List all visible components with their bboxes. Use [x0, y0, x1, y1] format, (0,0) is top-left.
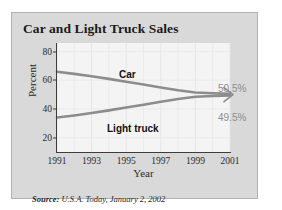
figure-card: Car and Light Truck Sales Percent Year 2… — [11, 12, 258, 199]
x-tick-label: 1997 — [151, 156, 170, 166]
x-tick-label: 1993 — [82, 156, 101, 166]
x-tick-label: 1999 — [186, 156, 205, 166]
x-axis-line — [56, 152, 231, 153]
source-note: Source: U.S.A. Today, January 2, 2002 — [32, 194, 165, 204]
y-axis-line — [56, 43, 57, 152]
y-tick-label: 40 — [43, 104, 53, 114]
y-tick-mark — [53, 80, 57, 81]
x-tick-label: 1991 — [48, 156, 67, 166]
x-tick-label: 2001 — [221, 156, 240, 166]
y-tick-label: 60 — [43, 75, 53, 85]
series-label-car: Car — [119, 69, 136, 80]
plot-area: 20406080 199119931995199719992001 — [57, 43, 230, 152]
y-tick-label: 20 — [43, 133, 53, 143]
chart-title: Car and Light Truck Sales — [23, 21, 179, 37]
source-note-text: U.S.A. Today, January 2, 2002 — [59, 194, 165, 204]
value-label-light-truck: 49.5% — [218, 112, 246, 123]
plot-frame: 20406080 199119931995199719992001 — [57, 43, 230, 152]
y-tick-mark — [53, 51, 57, 52]
value-label-car: 50.5% — [218, 83, 246, 94]
chart-plot-svg — [57, 43, 230, 152]
x-tick-label: 1995 — [117, 156, 136, 166]
y-axis-title: Percent — [26, 64, 38, 97]
source-note-prefix: Source: — [32, 194, 59, 204]
y-tick-label: 80 — [43, 47, 53, 57]
series-label-light-truck: Light truck — [107, 123, 159, 134]
y-tick-mark — [53, 108, 57, 109]
y-tick-mark — [53, 137, 57, 138]
x-axis-title: Year — [57, 167, 230, 179]
